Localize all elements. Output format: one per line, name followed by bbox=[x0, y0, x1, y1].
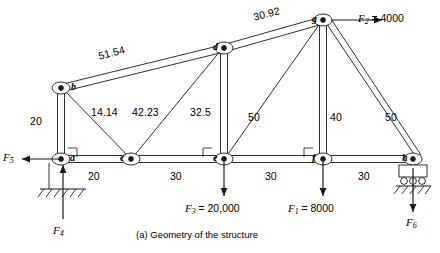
node-label-a: a bbox=[70, 152, 75, 163]
member-length-label-de: 32.5 bbox=[190, 106, 211, 118]
node-label-h: h bbox=[402, 152, 408, 163]
force-label-F1: F1 = 8000 bbox=[288, 202, 334, 216]
node-label-e: e bbox=[213, 152, 217, 163]
force-subscript-F3: 3 bbox=[192, 207, 196, 216]
force-label-F3: F3 = 20,000 bbox=[185, 202, 240, 216]
figure-container: a b c d e f g h 51.54 30.92 20 14.14 42.… bbox=[0, 0, 440, 253]
force-symbol-F5: F bbox=[3, 151, 10, 163]
member-length-label-bc: 14.14 bbox=[91, 106, 118, 118]
member-length-label-cd: 42.23 bbox=[132, 106, 159, 118]
member-d-g bbox=[224, 17, 323, 53]
force-subscript-F1: 1 bbox=[295, 207, 299, 216]
member-a-h bbox=[61, 156, 413, 163]
force-subscript-F6: 6 bbox=[413, 221, 417, 230]
force-symbol-F2: F bbox=[358, 12, 365, 24]
dimension-label-ac: 20 bbox=[88, 170, 100, 182]
force-value-F1: = 8000 bbox=[301, 202, 333, 214]
dimension-label-fh: 30 bbox=[358, 170, 370, 182]
dimension-label-ce: 30 bbox=[170, 170, 182, 182]
node-label-c: c bbox=[120, 152, 124, 163]
node-label-d: d bbox=[213, 41, 218, 52]
node-markers bbox=[52, 14, 422, 165]
support-pinned-a bbox=[38, 163, 86, 197]
member-length-label-eg: 50 bbox=[248, 111, 260, 123]
force-label-F4: F4 bbox=[53, 224, 64, 238]
node-label-g: g bbox=[312, 13, 317, 24]
force-label-F2: F2 = 4000 bbox=[358, 12, 404, 26]
member-length-label-fg: 40 bbox=[330, 111, 342, 123]
node-label-f: f bbox=[312, 152, 315, 163]
force-subscript-F2: 2 bbox=[365, 17, 369, 26]
node-label-b: b bbox=[71, 81, 76, 92]
member-length-label-gh: 50 bbox=[385, 111, 397, 123]
force-label-F5: F5 bbox=[3, 151, 14, 165]
force-subscript-F5: 5 bbox=[10, 156, 14, 165]
member-e-g bbox=[226, 22, 321, 157]
force-symbol-F3: F bbox=[185, 202, 192, 214]
force-symbol-F6: F bbox=[406, 216, 413, 228]
force-value-F3: = 20,000 bbox=[198, 202, 239, 214]
force-subscript-F4: 4 bbox=[60, 229, 64, 238]
dimension-label-ef: 30 bbox=[265, 170, 277, 182]
member-c-d bbox=[133, 50, 221, 157]
force-symbol-F1: F bbox=[288, 202, 295, 214]
force-label-F6: F6 bbox=[406, 216, 417, 230]
member-f-g bbox=[320, 20, 327, 159]
member-length-label-ab: 20 bbox=[30, 115, 42, 127]
member-a-b bbox=[58, 88, 65, 159]
member-b-c bbox=[64, 90, 129, 157]
figure-caption: (a) Geometry of the structure bbox=[136, 229, 258, 240]
member-g-h bbox=[326, 19, 422, 157]
force-value-F2: = 4000 bbox=[371, 12, 403, 24]
force-symbol-F4: F bbox=[53, 224, 60, 236]
member-b-d bbox=[61, 45, 224, 93]
member-d-e bbox=[221, 48, 228, 159]
